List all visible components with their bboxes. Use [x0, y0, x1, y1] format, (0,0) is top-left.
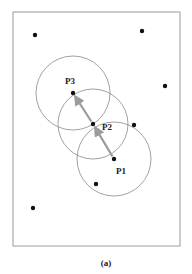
label-p1: P1 [116, 166, 126, 176]
data-point [140, 29, 144, 33]
data-point [33, 33, 37, 37]
data-point [31, 206, 35, 210]
data-point [132, 123, 136, 127]
diagram-canvas: P1P2P3 (a) [0, 0, 192, 274]
point-p2 [91, 122, 95, 126]
point-p3 [71, 91, 75, 95]
point-labels: P1P2P3 [65, 76, 126, 176]
data-point [94, 182, 98, 186]
figure-caption: (a) [101, 258, 112, 268]
data-point [163, 84, 167, 88]
label-p2: P2 [102, 122, 112, 132]
label-p3: P3 [65, 76, 75, 86]
arrow-p2-to-p3 [75, 96, 91, 121]
point-p1 [112, 157, 116, 161]
